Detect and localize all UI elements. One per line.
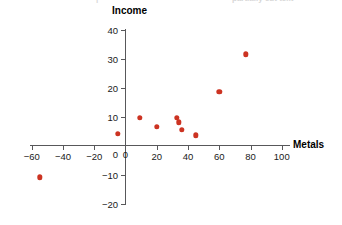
x-axis-tick [32,146,33,150]
data-point [217,89,222,94]
x-axis-tick-label: 60 [214,151,225,162]
x-axis-tick-label: 40 [183,151,194,162]
x-axis-title: Metals [293,139,324,150]
data-point [179,127,184,132]
y-axis-tick [121,204,125,205]
x-axis-tick-label: 80 [245,151,256,162]
y-axis-tick-label: 40 [107,24,118,35]
data-point [193,133,198,138]
x-axis-tick [219,146,220,150]
x-axis-tick [251,146,252,150]
y-axis-tick [121,117,125,118]
y-axis-tick-label: 10 [107,111,118,122]
y-axis-line [125,29,126,205]
y-axis-tick-label: 20 [107,82,118,93]
data-point [176,120,181,125]
y-axis-tick [121,175,125,176]
data-point [243,51,248,56]
x-axis-tick-label: 20 [151,151,162,162]
y-axis-tick [121,88,125,89]
y-axis-tick-label: −10 [102,169,118,180]
y-axis-tick [121,30,125,31]
y-axis-tick-label: −20 [102,198,118,209]
data-point [115,131,120,136]
data-point [154,124,159,129]
y-axis-tick-label: 30 [107,53,118,64]
x-axis-tick-label: 0 [123,149,128,160]
x-axis-tick [157,146,158,150]
x-axis-tick-label: −20 [86,151,102,162]
x-axis-tick [282,146,283,150]
scatter-plot-figure: | partially cut text −60−40−200204060801… [0,0,342,225]
x-axis-tick [94,146,95,150]
x-axis-tick [188,146,189,150]
data-point [137,115,142,120]
x-axis-tick-label: 100 [274,151,290,162]
x-axis-tick-label: −60 [24,151,40,162]
x-axis-tick [63,146,64,150]
x-axis-tick-label: −40 [55,151,71,162]
y-axis-title: Income [112,5,147,16]
y-axis-tick [121,59,125,60]
data-point [37,175,42,180]
y-axis-tick-label: 0 [113,148,118,159]
plot-area: −60−40−20020406080100−20−10010203040 [0,0,342,225]
